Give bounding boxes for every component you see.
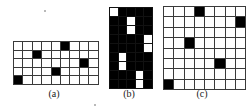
grid-b-cell-r8-c0 [110,80,118,88]
grid-a-cell-r3-c3 [42,68,50,76]
grid-c-cell-r5-c0 [164,59,173,68]
grid-c-cell-r5-c7 [236,59,245,68]
grid-a-cell-r3-c2 [33,68,41,76]
grid-b-cell-r5-c0 [110,53,118,61]
grid-c-cell-r4-c5 [215,49,224,58]
grid-b-cell-r8-c1 [119,80,127,88]
grid-c-cell-r4-c2 [185,49,194,58]
grid-a [13,41,99,85]
grid-b-cell-r8-c2 [127,80,135,88]
grid-a-cell-r4-c3 [42,76,50,84]
grid-c-cell-r5-c5 [215,59,224,68]
grid-a-cell-r1-c2 [33,51,41,59]
grid-c-cell-r0-c4 [205,7,214,16]
grid-a-cell-r1-c7 [80,51,88,59]
grid-a-cell-r3-c0 [14,68,22,76]
grid-b-cell-r8-c3 [136,80,144,88]
grid-b-cell-r0-c3 [136,8,144,16]
grid-b-cell-r6-c2 [127,62,135,70]
grid-b-cell-r7-c0 [110,71,118,79]
grid-a-cell-r1-c4 [52,51,60,59]
grid-c-cell-r1-c5 [215,17,224,26]
grid-c-cell-r2-c6 [226,28,235,37]
grid-a-cell-r0-c4 [52,42,60,50]
grid-c-cell-r3-c1 [174,38,183,47]
grid-a-cell-r0-c6 [70,42,78,50]
figure-container: (a) (b) (c) [0,0,252,110]
grid-b-cell-r5-c2 [127,53,135,61]
grid-a-cell-r0-c8 [89,42,97,50]
grid-c-cell-r6-c2 [185,69,194,78]
grid-b-cell-r6-c3 [136,62,144,70]
grid-c-cell-r0-c7 [236,7,245,16]
grid-c-cell-r3-c6 [226,38,235,47]
grid-c-cell-r6-c3 [195,69,204,78]
grid-c-cell-r4-c7 [236,49,245,58]
grid-c-cell-r4-c1 [174,49,183,58]
grid-a-cell-r0-c3 [42,42,50,50]
grid-b-cell-r5-c1 [119,53,127,61]
grid-c-cell-r0-c2 [185,7,194,16]
grid-c-cell-r5-c2 [185,59,194,68]
grid-c-cell-r2-c1 [174,28,183,37]
grid-b-cell-r3-c1 [119,35,127,43]
grid-c-cell-r2-c0 [164,28,173,37]
grid-c-cell-r1-c0 [164,17,173,26]
grid-b-cell-r1-c4 [144,17,152,25]
grid-b [109,7,153,89]
grid-b-cell-r1-c3 [136,17,144,25]
grid-c-cell-r2-c7 [236,28,245,37]
grid-c-cell-r1-c3 [195,17,204,26]
panel-a-caption: (a) [0,88,108,99]
grid-c-cell-r6-c0 [164,69,173,78]
grid-c-cell-r4-c4 [205,49,214,58]
grid-a-cell-r1-c0 [14,51,22,59]
grid-c-cell-r5-c1 [174,59,183,68]
grid-c-cell-r5-c4 [205,59,214,68]
grid-b-cell-r3-c3 [136,35,144,43]
grid-b-cell-r0-c1 [119,8,127,16]
grid-b-cell-r4-c0 [110,44,118,52]
grid-b-cell-r2-c4 [144,26,152,34]
grid-a-cell-r4-c1 [23,76,31,84]
grid-a-cell-r2-c2 [33,59,41,67]
grid-a-cell-r1-c6 [70,51,78,59]
grid-b-cell-r2-c1 [119,26,127,34]
grid-c-cell-r6-c1 [174,69,183,78]
grid-c-cell-r6-c4 [205,69,214,78]
grid-a-cell-r2-c8 [89,59,97,67]
grid-b-cell-r6-c1 [119,62,127,70]
grid-c-cell-r5-c6 [226,59,235,68]
grid-b-cell-r5-c3 [136,53,144,61]
scan-speck [44,10,46,12]
grid-a-cell-r2-c6 [70,59,78,67]
grid-c-cell-r3-c4 [205,38,214,47]
grid-a-cell-r2-c4 [52,59,60,67]
grid-c-cell-r1-c6 [226,17,235,26]
grid-b-cell-r7-c4 [144,71,152,79]
grid-a-cell-r3-c5 [61,68,69,76]
grid-a-cell-r3-c7 [80,68,88,76]
grid-a-cell-r4-c6 [70,76,78,84]
grid-b-cell-r0-c2 [127,8,135,16]
grid-b-cell-r4-c2 [127,44,135,52]
grid-c-cell-r6-c5 [215,69,224,78]
grid-a-cell-r2-c5 [61,59,69,67]
grid-b-cell-r2-c0 [110,26,118,34]
grid-c-cell-r0-c0 [164,7,173,16]
grid-a-cell-r0-c5 [61,42,69,50]
grid-a-cell-r1-c8 [89,51,97,59]
grid-b-cell-r6-c0 [110,62,118,70]
grid-c-cell-r3-c3 [195,38,204,47]
panel-c [163,6,246,90]
grid-b-cell-r0-c4 [144,8,152,16]
grid-b-cell-r4-c1 [119,44,127,52]
grid-c-cell-r3-c7 [236,38,245,47]
grid-b-cell-r1-c2 [127,17,135,25]
grid-a-cell-r1-c1 [23,51,31,59]
grid-c-cell-r3-c5 [215,38,224,47]
grid-b-cell-r3-c4 [144,35,152,43]
grid-a-cell-r4-c2 [33,76,41,84]
grid-c-cell-r3-c0 [164,38,173,47]
grid-c-cell-r0-c1 [174,7,183,16]
